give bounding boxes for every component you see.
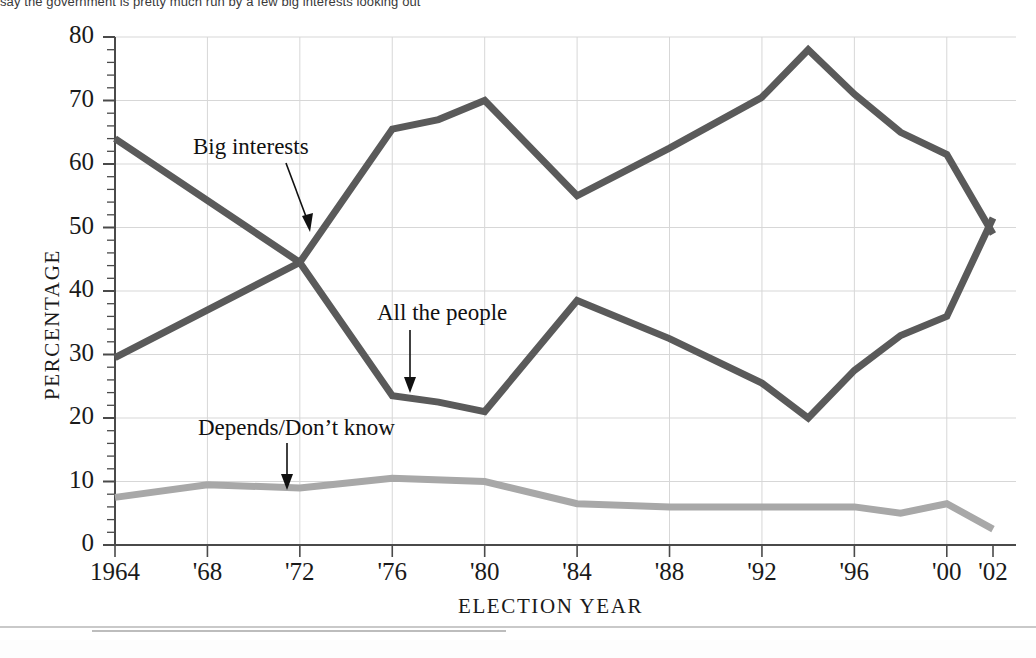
x-tick-label-1988: '88 bbox=[625, 558, 715, 586]
x-tick-label-1976: '76 bbox=[347, 558, 437, 586]
x-tick-label-1992: '92 bbox=[717, 558, 807, 586]
line-chart-plot bbox=[0, 0, 1036, 620]
y-tick-label-80: 80 bbox=[44, 21, 94, 49]
series-label-depends-dont-know: Depends/Don’t know bbox=[198, 415, 395, 441]
y-minor-ticks bbox=[103, 37, 115, 545]
big-interests-arrow bbox=[286, 163, 308, 222]
series-line-1 bbox=[115, 218, 993, 418]
x-tick-label-1968: '68 bbox=[162, 558, 252, 586]
page-divider-rule-secondary bbox=[92, 630, 506, 632]
all-the-people-arrowhead bbox=[404, 377, 416, 393]
x-tick-label-1972: '72 bbox=[255, 558, 345, 586]
y-axis-title: PERCENTAGE bbox=[40, 249, 65, 400]
y-tick-label-70: 70 bbox=[44, 85, 94, 113]
series-line-2 bbox=[115, 478, 993, 529]
x-tick-label-1996: '96 bbox=[809, 558, 899, 586]
series-label-big-interests: Big interests bbox=[193, 134, 309, 160]
y-tick-label-50: 50 bbox=[44, 212, 94, 240]
y-tick-label-10: 10 bbox=[44, 466, 94, 494]
axis-major-ticks bbox=[115, 545, 993, 557]
x-tick-label-1964: 1964 bbox=[70, 558, 160, 586]
x-tick-label-1980: '80 bbox=[440, 558, 530, 586]
chart-page: say the government is pretty much run by… bbox=[0, 0, 1036, 658]
page-divider-rule bbox=[0, 626, 1036, 628]
y-tick-label-60: 60 bbox=[44, 148, 94, 176]
x-tick-label-1984: '84 bbox=[532, 558, 622, 586]
y-tick-label-20: 20 bbox=[44, 402, 94, 430]
data-series-layer bbox=[115, 50, 993, 529]
x-axis-title: ELECTION YEAR bbox=[458, 594, 643, 619]
page-bottom-edge bbox=[0, 640, 1036, 658]
series-label-all-the-people: All the people bbox=[377, 300, 507, 326]
x-tick-label-2002: '02 bbox=[948, 558, 1036, 586]
y-tick-label-0: 0 bbox=[44, 529, 94, 557]
big-interests-arrowhead bbox=[302, 213, 313, 232]
